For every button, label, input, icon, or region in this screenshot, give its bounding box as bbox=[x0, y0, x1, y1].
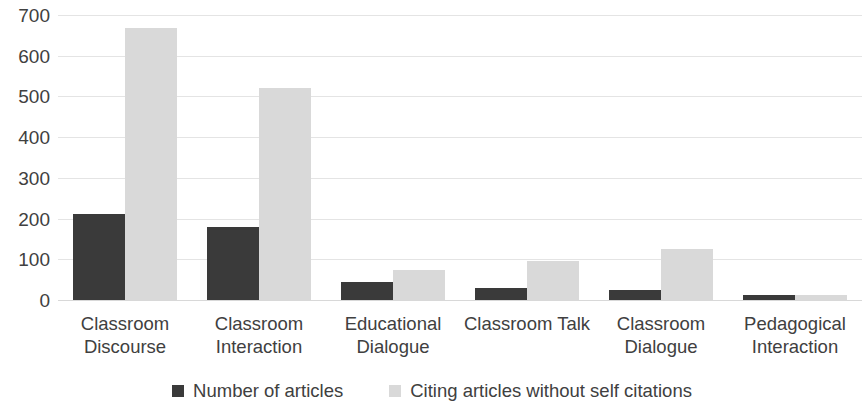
bar bbox=[795, 295, 847, 300]
bar bbox=[527, 261, 579, 300]
x-axis-label: EducationalDialogue bbox=[326, 312, 460, 358]
chart-legend: Number of articlesCiting articles withou… bbox=[0, 378, 864, 404]
bar bbox=[743, 295, 795, 300]
y-axis-tick-label: 600 bbox=[2, 47, 50, 66]
bar bbox=[125, 28, 177, 300]
legend-label: Number of articles bbox=[193, 381, 343, 401]
y-axis: 7006005004003002001000 bbox=[0, 0, 58, 310]
x-axis-label-line: Classroom bbox=[58, 312, 192, 335]
y-axis-tick-label: 200 bbox=[2, 210, 50, 229]
x-axis-label: Classroom Talk bbox=[460, 312, 594, 335]
legend-swatch-icon bbox=[172, 385, 184, 397]
bar bbox=[259, 88, 311, 300]
bars-layer bbox=[58, 15, 862, 300]
x-axis-category-labels: ClassroomDiscourseClassroomInteractionEd… bbox=[58, 312, 862, 370]
plot-region: 7006005004003002001000 bbox=[0, 0, 864, 310]
x-axis-label: ClassroomDialogue bbox=[594, 312, 728, 358]
legend-item[interactable]: Citing articles without self citations bbox=[389, 381, 692, 401]
x-axis-label-line: Interaction bbox=[192, 335, 326, 358]
y-axis-tick-label: 0 bbox=[2, 291, 50, 310]
y-axis-tick-label: 300 bbox=[2, 169, 50, 188]
bar bbox=[661, 249, 713, 300]
x-axis-label: ClassroomInteraction bbox=[192, 312, 326, 358]
x-axis-label-line: Classroom Talk bbox=[460, 312, 594, 335]
x-axis-label: ClassroomDiscourse bbox=[58, 312, 192, 358]
x-axis-label-line: Educational bbox=[326, 312, 460, 335]
y-axis-tick-label: 500 bbox=[2, 87, 50, 106]
x-axis-label-line: Dialogue bbox=[594, 335, 728, 358]
x-axis-label-line: Classroom bbox=[594, 312, 728, 335]
x-axis-label-line: Interaction bbox=[728, 335, 862, 358]
gridline bbox=[58, 300, 862, 301]
legend-item[interactable]: Number of articles bbox=[172, 381, 343, 401]
legend-swatch-icon bbox=[389, 385, 401, 397]
bar bbox=[609, 290, 661, 300]
x-axis-label-line: Classroom bbox=[192, 312, 326, 335]
x-axis-label-line: Discourse bbox=[58, 335, 192, 358]
bar bbox=[73, 214, 125, 300]
legend-label: Citing articles without self citations bbox=[410, 381, 692, 401]
y-axis-tick-label: 100 bbox=[2, 250, 50, 269]
x-axis-label-line: Dialogue bbox=[326, 335, 460, 358]
bar bbox=[393, 270, 445, 300]
plot-area bbox=[58, 15, 862, 300]
bar bbox=[341, 282, 393, 300]
x-axis-label: PedagogicalInteraction bbox=[728, 312, 862, 358]
x-axis-label-line: Pedagogical bbox=[728, 312, 862, 335]
bar-chart: 7006005004003002001000 ClassroomDiscours… bbox=[0, 0, 864, 407]
bar bbox=[475, 288, 527, 300]
y-axis-tick-label: 700 bbox=[2, 6, 50, 25]
bar bbox=[207, 227, 259, 300]
y-axis-tick-label: 400 bbox=[2, 128, 50, 147]
